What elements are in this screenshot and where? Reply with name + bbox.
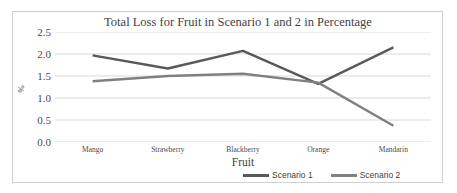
chart-title: Total Loss for Fruit in Scenario 1 and 2… (53, 15, 423, 30)
y-axis-tick-label: 0.5 (25, 115, 51, 126)
y-axis-tick-label: 2.0 (25, 49, 51, 60)
chart-legend: Scenario 1Scenario 2 (243, 170, 400, 180)
legend-swatch-icon (243, 174, 269, 177)
legend-item[interactable]: Scenario 2 (331, 170, 401, 180)
plot-area (55, 32, 431, 142)
legend-swatch-icon (331, 174, 357, 177)
y-axis-tick-label: 0.0 (25, 137, 51, 148)
x-axis-tick-label: Strawberry (130, 145, 206, 154)
x-axis-title: Fruit (55, 156, 431, 168)
legend-label: Scenario 2 (360, 170, 401, 180)
chart-container: Total Loss for Fruit in Scenario 1 and 2… (12, 11, 443, 183)
y-axis-tick-label: 2.5 (25, 27, 51, 38)
gridlines (55, 32, 431, 142)
plot-svg (55, 32, 431, 142)
legend-item[interactable]: Scenario 1 (243, 170, 313, 180)
series-lines (93, 47, 394, 125)
y-axis-tick-label: 1.5 (25, 71, 51, 82)
x-axis-tick-label: Blackberry (205, 145, 281, 154)
series-line (93, 74, 394, 126)
x-axis-tick-label: Orange (280, 145, 356, 154)
legend-label: Scenario 1 (272, 170, 313, 180)
x-axis-tick-label: Mandarin (355, 145, 431, 154)
x-axis-tick-label: Mango (55, 145, 131, 154)
y-axis-tick-label: 1.0 (25, 93, 51, 104)
